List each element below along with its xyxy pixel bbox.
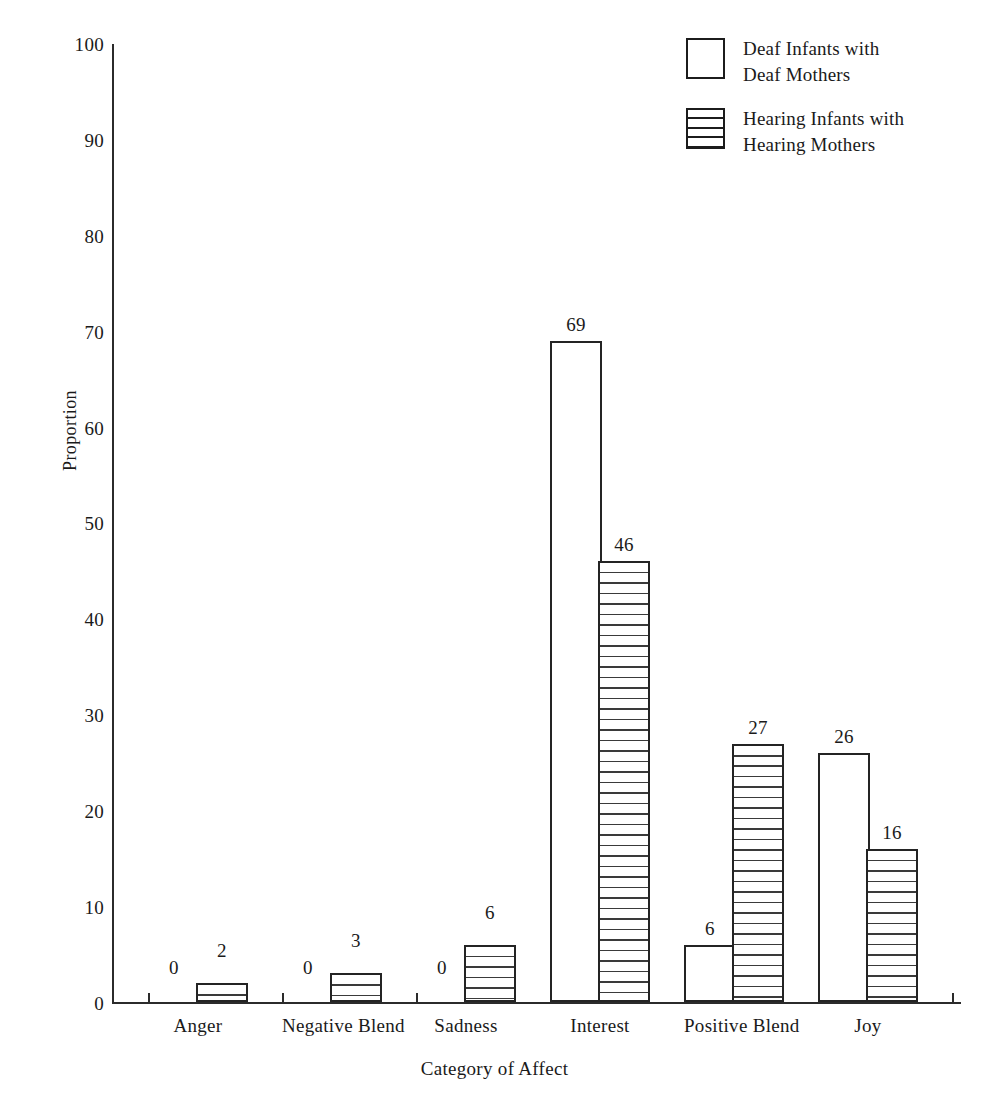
y-tick-label: 30 (44, 706, 104, 725)
y-tick-70: 70 (42, 323, 104, 342)
category-label-anger: Anger (148, 1015, 248, 1037)
y-axis-line (112, 44, 114, 1003)
x-tick-mark (416, 993, 418, 1003)
value-label-sadness-hearing: 6 (464, 903, 516, 922)
bar-interest-hearing (598, 561, 650, 1002)
y-tick-50: 50 (42, 514, 104, 533)
y-tick-40: 40 (42, 610, 104, 629)
value-label-sadness-deaf: 0 (416, 958, 468, 977)
y-tick-100: 100 (42, 35, 104, 54)
y-tick-label: 40 (44, 610, 104, 629)
value-label-anger-hearing: 2 (196, 941, 248, 960)
y-tick-label: 20 (44, 802, 104, 821)
x-tick-mark (952, 993, 954, 1003)
x-axis-line (112, 1002, 961, 1004)
value-label-joy-deaf: 26 (818, 727, 870, 746)
y-tick-label: 50 (44, 514, 104, 533)
striped-square-icon (686, 108, 725, 149)
bar-joy-deaf (818, 753, 870, 1002)
category-label-joy: Joy (818, 1015, 918, 1037)
category-label-sadness: Sadness (416, 1015, 516, 1037)
value-label-interest-hearing: 46 (598, 535, 650, 554)
y-tick-label: 10 (44, 898, 104, 917)
bar-positive-blend-hearing (732, 744, 784, 1002)
x-axis-title: Category of Affect (0, 1058, 989, 1080)
category-label-interest: Interest (550, 1015, 650, 1037)
y-tick-label: 80 (44, 227, 104, 246)
category-label-positive-blend: Positive Blend (684, 1015, 784, 1037)
bar-negative-blend-hearing (330, 973, 382, 1002)
category-label-negative-blend: Negative Blend (282, 1015, 382, 1037)
legend-item-label: Hearing Infants with Hearing Mothers (743, 106, 904, 158)
y-tick-90: 90 (42, 131, 104, 150)
y-tick-label: 60 (44, 419, 104, 438)
y-tick-20: 20 (42, 802, 104, 821)
value-label-anger-deaf: 0 (148, 958, 200, 977)
y-tick-10: 10 (42, 898, 104, 917)
y-tick-60: 60 (42, 419, 104, 438)
bar-anger-hearing (196, 983, 248, 1002)
y-tick-label: 100 (44, 35, 104, 54)
legend-item-label: Deaf Infants with Deaf Mothers (743, 36, 879, 88)
bar-sadness-hearing (464, 945, 516, 1002)
white-square-icon (686, 38, 725, 79)
value-label-negative-blend-deaf: 0 (282, 958, 334, 977)
value-label-positive-blend-deaf: 6 (684, 919, 736, 938)
value-label-interest-deaf: 69 (550, 315, 602, 334)
y-tick-label: 90 (44, 131, 104, 150)
value-label-joy-hearing: 16 (866, 823, 918, 842)
value-label-negative-blend-hearing: 3 (330, 931, 382, 950)
y-tick-30: 30 (42, 706, 104, 725)
y-tick-label: 70 (44, 323, 104, 342)
bar-joy-hearing (866, 849, 918, 1002)
x-tick-mark (282, 993, 284, 1003)
value-label-positive-blend-hearing: 27 (732, 718, 784, 737)
y-tick-80: 80 (42, 227, 104, 246)
x-tick-mark (148, 993, 150, 1003)
y-tick-label: 0 (44, 994, 104, 1013)
legend-item-hearing: Hearing Infants with Hearing Mothers (686, 106, 986, 158)
legend: Deaf Infants with Deaf Mothers Hearing I… (686, 36, 986, 176)
y-tick-0: 0 (42, 994, 104, 1013)
legend-item-deaf: Deaf Infants with Deaf Mothers (686, 36, 986, 88)
bar-positive-blend-deaf (684, 945, 736, 1002)
bar-chart: Proportion 100 90 80 70 60 50 40 30 20 1… (0, 0, 989, 1098)
bar-interest-deaf (550, 341, 602, 1002)
